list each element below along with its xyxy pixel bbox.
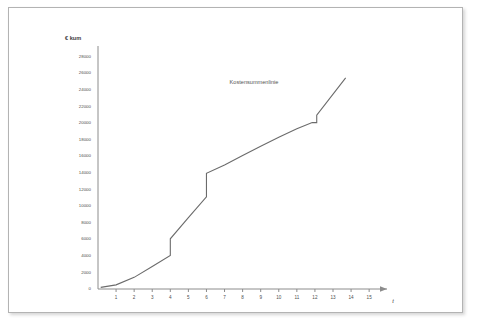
- x-tick-label: 9: [259, 295, 262, 300]
- x-tick-label: 8: [241, 295, 244, 300]
- y-tick-label: 2000: [81, 270, 91, 275]
- x-axis-title: t: [392, 298, 394, 304]
- y-tick-label: 22000: [79, 104, 92, 109]
- y-tick-label: 20000: [79, 120, 92, 125]
- x-tick-label: 1: [115, 295, 118, 300]
- y-tick-label: 26000: [79, 70, 92, 75]
- y-tick-label: 28000: [79, 54, 92, 59]
- y-tick-label: 18000: [79, 137, 92, 142]
- y-tick-label: 14000: [79, 170, 92, 175]
- y-tick-label: 16000: [79, 153, 92, 158]
- screenshot-root: € kum 0200040006000800010000120001400016…: [0, 0, 480, 331]
- y-tick-label: 4000: [81, 253, 91, 258]
- x-tick-label: 4: [169, 295, 172, 300]
- y-axis-ticks: 0200040006000800010000120001400016000180…: [79, 54, 92, 291]
- x-tick-label: 15: [367, 295, 373, 300]
- x-axis-arrowhead: [380, 286, 387, 292]
- kostensummenlinie-chart: € kum 0200040006000800010000120001400016…: [9, 8, 464, 314]
- y-tick-label: 10000: [79, 203, 92, 208]
- x-tick-label: 10: [276, 295, 282, 300]
- x-tick-label: 11: [294, 295, 299, 300]
- x-tick-label: 12: [312, 295, 318, 300]
- y-tick-label: 24000: [79, 87, 92, 92]
- y-tick-label: 6000: [81, 236, 91, 241]
- y-axis-title: € kum: [65, 35, 81, 41]
- y-tick-label: 12000: [79, 187, 92, 192]
- chart-card-frame: € kum 0200040006000800010000120001400016…: [8, 7, 463, 313]
- x-tick-label: 14: [349, 295, 355, 300]
- x-tick-label: 13: [330, 295, 336, 300]
- cost-sum-line: [101, 78, 346, 288]
- x-tick-label: 5: [187, 295, 190, 300]
- x-tick-label: 7: [223, 295, 226, 300]
- y-tick-label: 0: [89, 286, 92, 291]
- x-tick-label: 6: [205, 295, 208, 300]
- y-tick-label: 8000: [81, 220, 91, 225]
- series-annotation-label: Kostensummenlinie: [230, 79, 279, 85]
- x-axis-ticks: 123456789101112131415: [115, 289, 372, 300]
- x-tick-label: 3: [151, 295, 154, 300]
- x-tick-label: 2: [133, 295, 136, 300]
